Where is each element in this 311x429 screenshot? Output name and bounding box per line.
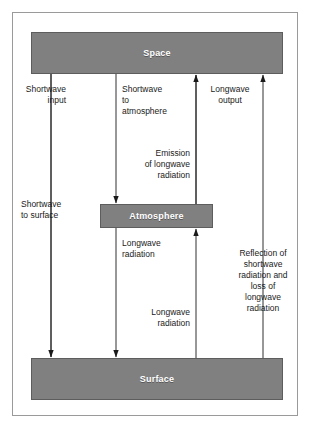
flow-label-emission-of-longwave-radiation: Emission of longwave radiation xyxy=(120,148,190,181)
flow-label-longwave-output: Longwave output xyxy=(200,84,260,106)
layer-box-surface-label: Surface xyxy=(140,374,174,384)
flow-label-longwave-radiation-surface-to-atmosphere: Longwave radiation xyxy=(128,307,190,329)
flow-label-shortwave-input: Shortwave input xyxy=(8,84,66,106)
layer-box-surface: Surface xyxy=(31,358,283,400)
radiation-balance-diagram: Space Atmosphere Surface Shortwave input… xyxy=(0,0,311,429)
flow-label-shortwave-to-surface: Shortwave to surface xyxy=(21,199,87,221)
flow-label-longwave-radiation-atmosphere-to-surface: Longwave radiation xyxy=(122,238,188,260)
layer-box-atmosphere-label: Atmosphere xyxy=(129,211,184,221)
layer-box-space-label: Space xyxy=(143,48,171,58)
flow-label-reflection-and-loss: Reflection of shortwave radiation and lo… xyxy=(231,248,295,314)
layer-box-atmosphere: Atmosphere xyxy=(100,204,213,228)
layer-box-space: Space xyxy=(31,32,283,74)
flow-label-shortwave-to-atmosphere: Shortwave to atmosphere xyxy=(122,84,192,117)
